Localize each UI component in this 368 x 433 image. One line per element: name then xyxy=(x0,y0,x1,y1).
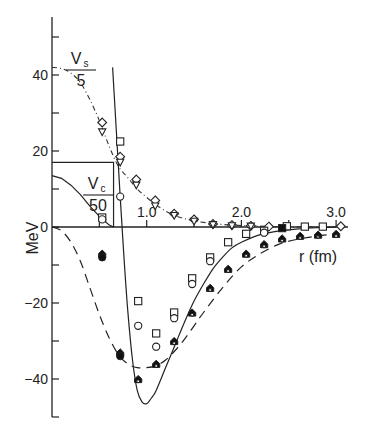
marker-circle xyxy=(135,322,142,329)
marker-filled-circle xyxy=(99,254,106,261)
marker-circle xyxy=(99,216,106,223)
x-tick-label: 2.0 xyxy=(232,204,252,220)
marker-square xyxy=(117,138,124,145)
marker-filled-triangle xyxy=(315,231,322,238)
vc-over-50-label-numerator: V xyxy=(88,175,99,192)
marker-filled-square xyxy=(279,225,286,232)
marker-filled-triangle xyxy=(261,241,268,248)
marker-filled-triangle xyxy=(243,250,250,257)
marker-filled-circle xyxy=(117,353,124,360)
labels: MeV r (fm) Vs5Vc50 xyxy=(24,50,337,265)
y-tick-label: 0 xyxy=(40,219,48,235)
marker-diamond xyxy=(336,222,345,231)
vc-over-50-label-denominator: 50 xyxy=(89,197,107,214)
y-tick-label: 40 xyxy=(32,67,48,83)
marker-circle xyxy=(153,343,160,350)
marker-circle xyxy=(261,229,268,236)
marker-square xyxy=(153,330,160,337)
x-tick-label: 3.0 xyxy=(326,204,346,220)
marker-circle xyxy=(189,280,196,287)
marker-filled-triangle xyxy=(279,235,286,242)
marker-filled-triangle xyxy=(297,232,304,239)
y-tick-label: −40 xyxy=(24,371,48,387)
dashed-potential-curve xyxy=(52,227,336,368)
y-tick-label: −20 xyxy=(24,295,48,311)
marker-square xyxy=(301,223,308,230)
vs-over-5-label: Vs5 xyxy=(66,50,96,89)
marker-triangle-down xyxy=(133,182,140,189)
marker-circle xyxy=(117,193,124,200)
marker-square xyxy=(135,298,142,305)
marker-square xyxy=(243,230,250,237)
vc-over-50-label: Vc50 xyxy=(83,175,113,214)
y-axis-label: MeV xyxy=(24,221,41,254)
marker-filled-triangle xyxy=(153,360,160,367)
vc-over-50-label-subscript: c xyxy=(101,183,106,194)
marker-filled-triangle xyxy=(225,265,232,272)
vs-over-5-label-subscript: s xyxy=(84,58,89,69)
vs-over-5-label-numerator: V xyxy=(71,50,82,67)
marker-circle xyxy=(207,258,214,265)
curves xyxy=(52,67,336,404)
vs-over-5-label-denominator: 5 xyxy=(77,72,86,89)
marker-square xyxy=(225,239,232,246)
marker-square xyxy=(319,223,326,230)
marker-filled-triangle xyxy=(333,230,340,237)
potential-chart: −40−20020401.02.03.0 MeV r (fm) Vs5Vc50 xyxy=(0,0,368,433)
marker-filled-triangle xyxy=(135,375,142,382)
marker-filled-triangle xyxy=(171,337,178,344)
marker-filled-triangle xyxy=(207,284,214,291)
marker-triangle-down xyxy=(99,129,106,136)
axes: −40−20020401.02.03.0 xyxy=(24,17,348,417)
x-axis-label: r (fm) xyxy=(299,248,337,265)
y-tick-label: 20 xyxy=(32,143,48,159)
marker-circle xyxy=(171,315,178,322)
